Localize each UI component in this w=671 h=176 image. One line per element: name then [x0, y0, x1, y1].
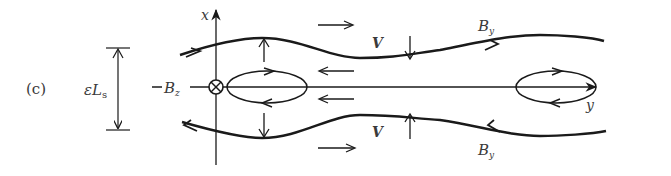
top-velocity-label: V — [372, 35, 385, 51]
top-by-label: By — [477, 17, 495, 36]
y-axis-label: y — [585, 97, 595, 113]
bottom-velocity-label: V — [372, 124, 385, 140]
width-label: εLs — [84, 81, 107, 100]
bottom-field-line — [182, 115, 606, 138]
magnetic-reconnection-diagram: (c) εLs Bz y x By By — [0, 0, 671, 176]
x-axis-label: x — [201, 7, 209, 23]
width-indicator — [106, 48, 130, 130]
top-field-line — [180, 35, 604, 58]
bz-label: Bz — [163, 79, 180, 98]
bz-into-page-icon — [209, 80, 223, 94]
bottom-by-label: By — [477, 141, 495, 160]
panel-label: (c) — [26, 80, 46, 98]
